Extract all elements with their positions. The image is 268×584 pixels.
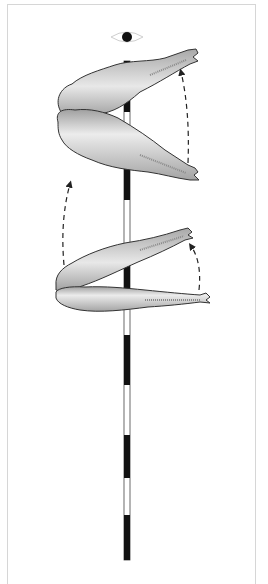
arrow-upper-right [181,72,188,163]
arrow-lower-right [191,246,200,290]
lower-pair-bottom-carcass [56,287,210,312]
arrow-left [63,184,70,265]
eye-icon [111,32,143,42]
